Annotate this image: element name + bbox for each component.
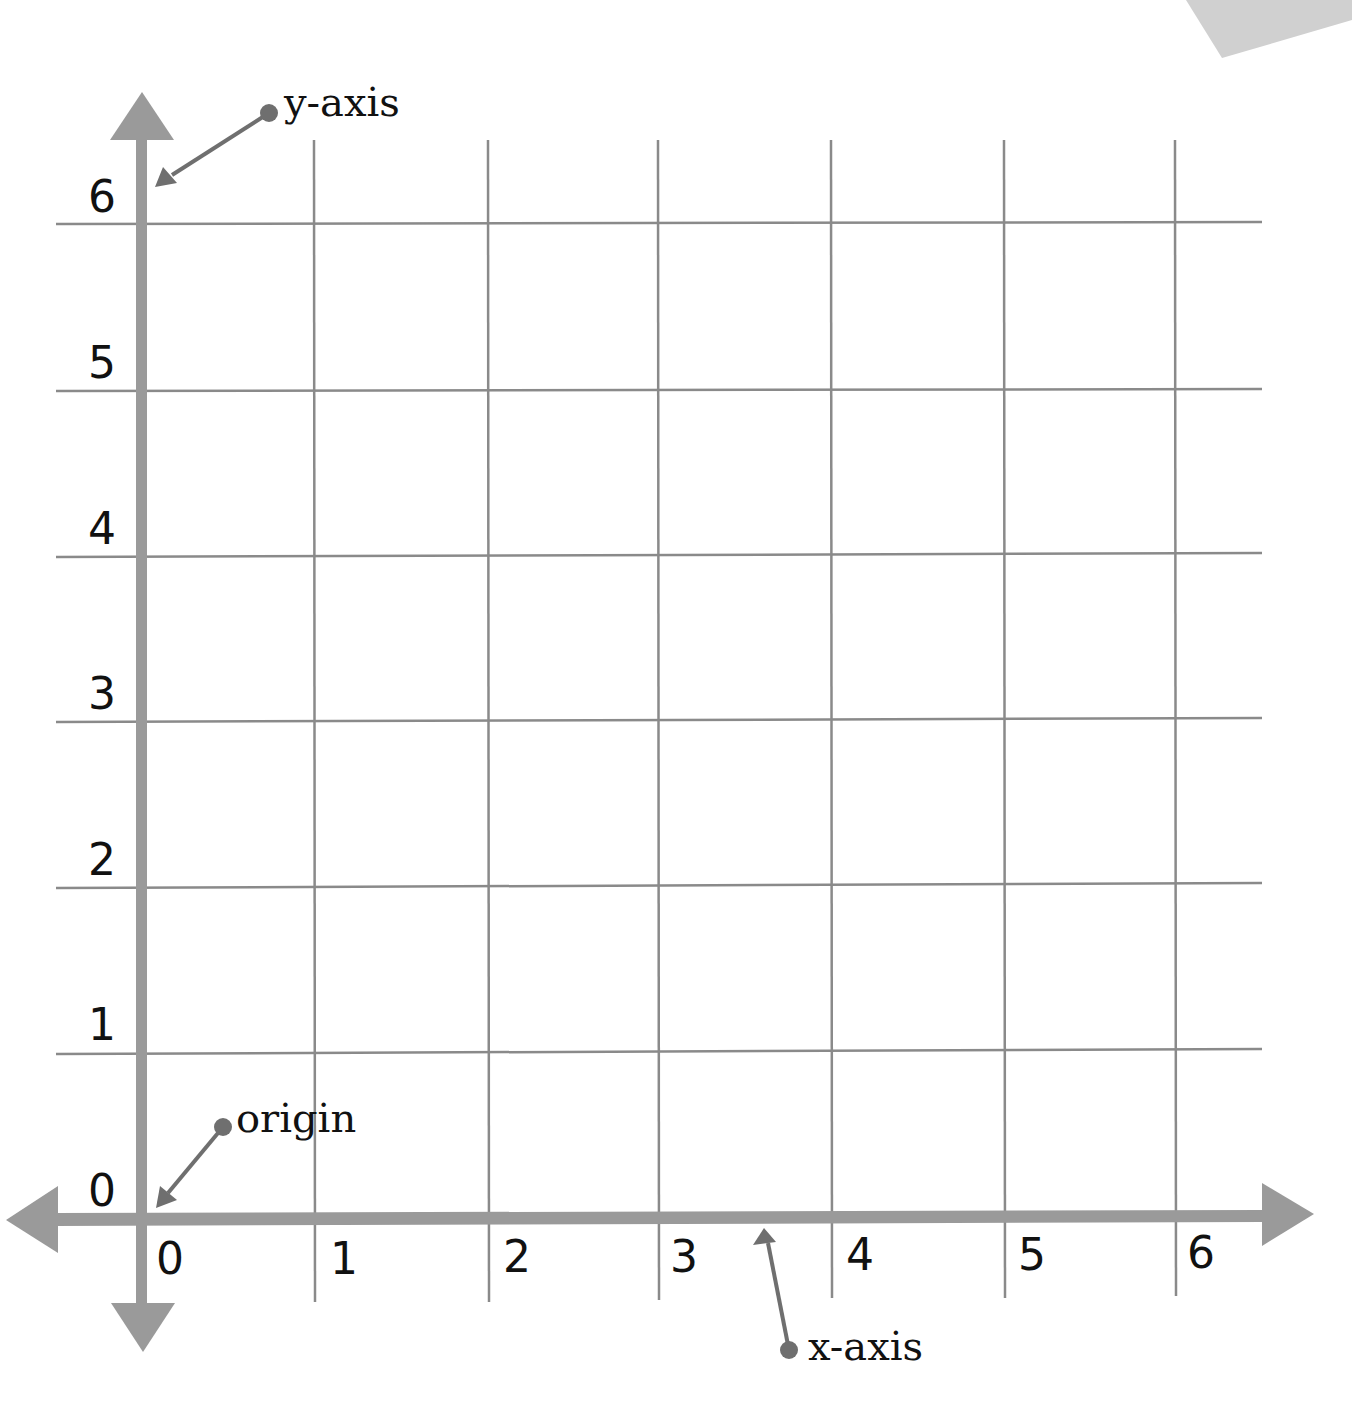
corner-shape xyxy=(1186,0,1352,58)
x-axis-annotation: x-axis xyxy=(753,1228,923,1369)
coordinate-plane: 6 5 4 3 2 1 0 0 1 2 3 4 5 6 y-axis origi… xyxy=(0,0,1352,1403)
y-axis-down-arrow-icon xyxy=(111,1303,175,1352)
y-tick-2: 2 xyxy=(88,834,116,885)
y-axis-annotation: y-axis xyxy=(155,79,400,187)
x-axis-left-arrow-icon xyxy=(6,1186,58,1253)
origin-label: origin xyxy=(236,1095,356,1141)
y-tick-0: 0 xyxy=(88,1165,116,1216)
x-axis-right-arrow-icon xyxy=(1262,1183,1314,1246)
y-tick-5: 5 xyxy=(88,337,116,388)
y-tick-3: 3 xyxy=(88,668,116,719)
x-tick-1: 1 xyxy=(330,1233,358,1284)
x-tick-6: 6 xyxy=(1187,1227,1215,1278)
x-tick-2: 2 xyxy=(503,1231,531,1282)
y-axis-up-arrow-icon xyxy=(110,92,174,140)
y-axis-label: y-axis xyxy=(283,79,400,125)
x-axis-label: x-axis xyxy=(808,1323,923,1369)
x-tick-3: 3 xyxy=(670,1231,698,1282)
y-tick-4: 4 xyxy=(88,503,116,554)
pointer-dot-icon xyxy=(780,1341,798,1359)
x-tick-5: 5 xyxy=(1018,1229,1046,1280)
y-tick-6: 6 xyxy=(88,171,116,222)
pointer-arrow-icon xyxy=(156,1186,177,1208)
y-tick-1: 1 xyxy=(88,999,116,1050)
pointer-arrow-icon xyxy=(155,167,177,187)
pointer-dot-icon xyxy=(260,104,278,122)
origin-annotation: origin xyxy=(156,1095,356,1208)
pointer-arrow-icon xyxy=(753,1228,776,1245)
y-tick-labels: 6 5 4 3 2 1 0 xyxy=(88,171,116,1216)
x-tick-0: 0 xyxy=(156,1233,184,1284)
pointer-dot-icon xyxy=(214,1118,232,1136)
x-tick-4: 4 xyxy=(846,1229,874,1280)
